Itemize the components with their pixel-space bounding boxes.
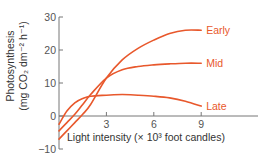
y-axis-title-line2: (mg CO₂ dm⁻² h⁻¹) — [17, 21, 29, 111]
x-tick-label: 6 — [151, 118, 157, 130]
y-tick-label: 10 — [44, 77, 56, 89]
x-tick-label: 9 — [198, 118, 204, 130]
y-tick-label: −10 — [38, 143, 56, 155]
y-tick-label: 0 — [50, 110, 56, 122]
photosynthesis-chart: −100102030369 EarlyMidLate Light intensi… — [0, 0, 277, 156]
series-label-mid: Mid — [206, 57, 223, 69]
y-tick-label: 20 — [44, 44, 56, 56]
series-line-late — [59, 95, 201, 125]
x-axis-title: Light intensity (× 10³ foot candles) — [67, 131, 225, 143]
series-label-late: Late — [206, 100, 227, 112]
series-line-early — [59, 30, 201, 139]
x-tick-label: 3 — [103, 118, 109, 130]
series-label-early: Early — [206, 24, 231, 36]
series-group — [59, 30, 201, 139]
y-tick-label: 30 — [44, 11, 56, 23]
series-line-mid — [59, 63, 201, 131]
y-axis-title-line1: Photosynthesis — [4, 30, 16, 101]
labels-group: EarlyMidLate — [206, 24, 231, 112]
